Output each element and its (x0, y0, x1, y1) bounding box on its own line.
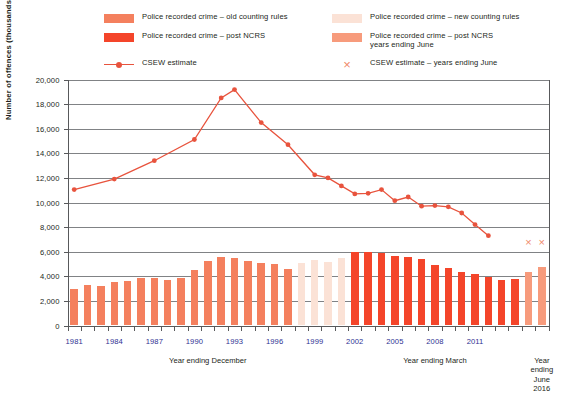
x-tick-mark (255, 327, 256, 331)
x-tick-mark (428, 327, 429, 331)
x-tick-mark (214, 327, 215, 331)
x-tick-label-1993: 1993 (226, 337, 243, 346)
x-tick-mark (455, 327, 456, 331)
x-tick-mark (134, 327, 135, 331)
csew-data-point-1995 (259, 120, 264, 125)
x-tick-mark (348, 327, 349, 331)
x-tick-mark (375, 327, 376, 331)
x-tick-mark (308, 327, 309, 331)
csew-data-point-2000 (326, 176, 331, 181)
x-tick-mark (228, 327, 229, 331)
x-tick-label-1990: 1990 (186, 337, 203, 346)
csew-data-point-1997 (286, 142, 291, 147)
x-tick-mark (174, 327, 175, 331)
csew-data-point-2002 (352, 192, 357, 197)
x-tick-label-1996: 1996 (266, 337, 283, 346)
csew-data-point-1987 (152, 158, 157, 163)
x-tick-mark (81, 327, 82, 331)
x-tick-mark (268, 327, 269, 331)
csew-data-point-2012 (486, 233, 491, 238)
csew-data-point-2007 (419, 204, 424, 209)
x-tick-label-1999: 1999 (306, 337, 323, 346)
csew-data-point-1999 (312, 172, 317, 177)
csew-data-point-1984 (112, 177, 117, 182)
x-tick-mark (94, 327, 95, 331)
x-tick-label-2008: 2008 (426, 337, 443, 346)
x-tick-mark (148, 327, 149, 331)
x-tick-mark (482, 327, 483, 331)
csew-data-point-2001 (339, 184, 344, 189)
csew-data-point-2010 (459, 211, 464, 216)
x-tick-mark (522, 327, 523, 331)
x-tick-mark (295, 327, 296, 331)
x-tick-mark (535, 327, 536, 331)
x-tick-mark (388, 327, 389, 331)
x-tick-label-1984: 1984 (106, 337, 123, 346)
x-tick-mark (468, 327, 469, 331)
csew-data-point-1992 (219, 96, 224, 101)
x-tick-mark (188, 327, 189, 331)
csew-data-point-2006 (406, 195, 411, 200)
x-tick-mark (415, 327, 416, 331)
x-axis-group-label-0: Year ending December (169, 356, 246, 366)
csew-june-cross-2016: × (539, 236, 545, 247)
x-tick-mark (508, 327, 509, 331)
x-tick-mark (108, 327, 109, 331)
x-tick-mark (68, 327, 69, 331)
x-axis-group-label-1: Year ending March (403, 356, 466, 366)
csew-data-point-2005 (392, 198, 397, 203)
csew-data-point-2008 (433, 203, 438, 208)
x-tick-mark (442, 327, 443, 331)
x-tick-label-1987: 1987 (146, 337, 163, 346)
x-tick-mark (335, 327, 336, 331)
x-axis-group-label-2: Year ending June 2016 (530, 356, 553, 394)
x-tick-label-2002: 2002 (346, 337, 363, 346)
x-tick-label-2005: 2005 (386, 337, 403, 346)
x-tick-mark (201, 327, 202, 331)
x-tick-mark (161, 327, 162, 331)
x-tick-mark (549, 327, 550, 331)
x-tick-mark (281, 327, 282, 331)
x-tick-mark (321, 327, 322, 331)
csew-estimate-line (74, 90, 488, 236)
x-tick-mark (495, 327, 496, 331)
csew-data-point-2009 (446, 204, 451, 209)
csew-data-point-2003 (366, 191, 371, 196)
csew-data-point-2011 (473, 222, 478, 227)
x-tick-mark (121, 327, 122, 331)
csew-data-point-1990 (192, 137, 197, 142)
x-tick-mark (402, 327, 403, 331)
csew-data-point-1981 (72, 187, 77, 192)
x-tick-mark (241, 327, 242, 331)
x-tick-label-2011: 2011 (467, 337, 484, 346)
x-tick-label-1981: 1981 (66, 337, 83, 346)
csew-data-point-1993 (232, 87, 237, 92)
csew-june-cross-2015: × (525, 236, 531, 247)
x-tick-mark (361, 327, 362, 331)
csew-data-point-2004 (379, 187, 384, 192)
